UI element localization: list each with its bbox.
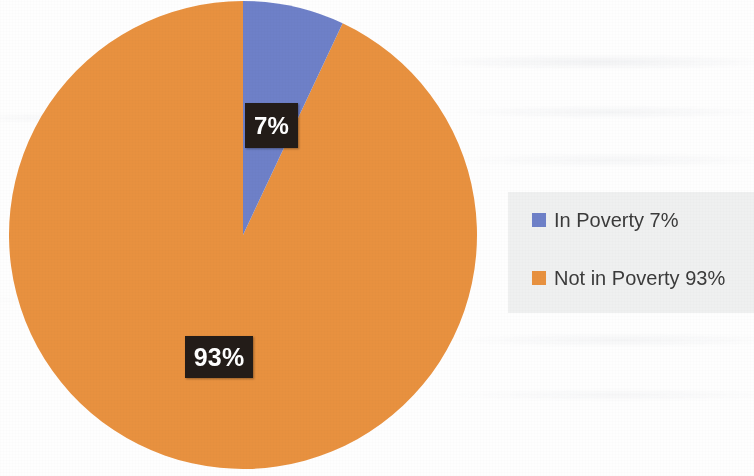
legend-label-in-poverty: In Poverty 7% <box>554 210 679 230</box>
pie-svg <box>9 1 477 469</box>
legend-swatch-in-poverty <box>532 213 546 227</box>
pie-chart-graphic <box>9 1 477 469</box>
legend-item-not-in-poverty[interactable]: Not in Poverty 93% <box>532 268 725 288</box>
data-label-not-in-poverty: 93% <box>185 336 253 378</box>
chart-legend: In Poverty 7% Not in Poverty 93% <box>508 192 754 313</box>
pie-chart-screenshot: 7% 93% In Poverty 7% Not in Poverty 93% <box>0 0 754 476</box>
legend-label-not-in-poverty: Not in Poverty 93% <box>554 268 725 288</box>
data-label-in-poverty: 7% <box>245 103 298 148</box>
legend-swatch-not-in-poverty <box>532 271 546 285</box>
legend-item-in-poverty[interactable]: In Poverty 7% <box>532 210 679 230</box>
